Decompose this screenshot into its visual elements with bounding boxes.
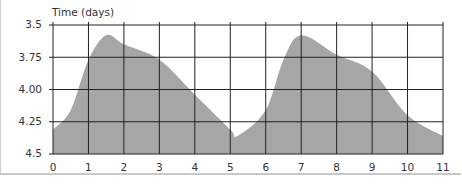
- area-series: [53, 35, 443, 154]
- x-tick-label: 9: [362, 161, 382, 173]
- x-tick-label: 11: [433, 161, 453, 173]
- x-tick-label: 3: [149, 161, 169, 173]
- x-tick-label: 0: [43, 161, 63, 173]
- x-tick-label: 7: [291, 161, 311, 173]
- x-tick-label: 2: [114, 161, 134, 173]
- plot-area: [0, 0, 462, 184]
- x-tick-label: 8: [327, 161, 347, 173]
- x-tick-label: 1: [78, 161, 98, 173]
- x-tick-label: 4: [185, 161, 205, 173]
- x-tick-label: 10: [398, 161, 418, 173]
- x-tick-label: 6: [256, 161, 276, 173]
- x-tick-label: 5: [220, 161, 240, 173]
